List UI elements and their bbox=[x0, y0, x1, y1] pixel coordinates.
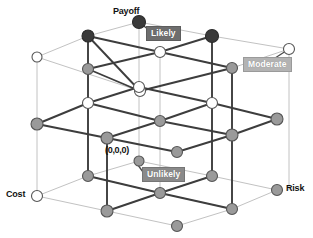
lattice-node-t-mid-mid bbox=[155, 47, 166, 58]
lattice-node-b-back-left bbox=[32, 191, 43, 202]
lattice-node-m-back-mid bbox=[83, 98, 94, 109]
lattice-node-m-center bbox=[155, 116, 166, 127]
lattice-node-b-front-right bbox=[272, 185, 283, 196]
diagram-canvas: Payoff Cost Risk (0,0,0) Likely Moderate… bbox=[0, 0, 313, 238]
lattice-node-b-mid-left bbox=[101, 205, 113, 217]
origin-coordinate-label: (0,0,0) bbox=[105, 145, 129, 155]
lattice-node-b-front-left bbox=[172, 221, 183, 232]
lattice-node-m-mid-left bbox=[101, 132, 113, 144]
lattice-node-m-back-right bbox=[134, 82, 145, 93]
axis-label-payoff: Payoff bbox=[113, 6, 139, 16]
lattice-node-b-center bbox=[155, 188, 166, 199]
lattice-node-b-front-mid bbox=[227, 204, 238, 215]
lattice-node-t-back-right bbox=[133, 16, 146, 29]
lattice-node-m-front-right bbox=[271, 113, 283, 125]
axis-label-risk: Risk bbox=[286, 183, 304, 193]
lattice-node-t-mid-right bbox=[206, 30, 219, 43]
lattice-node-t-back-left bbox=[32, 52, 42, 62]
lattice-node-t-front-mid bbox=[227, 63, 238, 74]
lattice-node-t-back-mid bbox=[82, 30, 94, 42]
lattice-node-m-back-left bbox=[31, 118, 43, 130]
lattice-node-t-mid-left bbox=[83, 64, 94, 75]
lattice-node-b-back-mid bbox=[83, 171, 94, 182]
callout-likely: Likely bbox=[146, 26, 181, 41]
callout-unlikely: Unlikely bbox=[142, 167, 185, 182]
axis-label-cost: Cost bbox=[6, 189, 25, 199]
lattice-node-m-front-mid bbox=[226, 129, 238, 141]
lattice-node-b-mid-right bbox=[207, 171, 218, 182]
lattice-node-b-back-right bbox=[134, 156, 144, 166]
lattice-node-m-front-left bbox=[172, 147, 183, 158]
lattice-node-m-mid-right bbox=[207, 98, 218, 109]
callout-moderate: Moderate bbox=[243, 57, 292, 72]
lattice-node-t-front-right bbox=[284, 44, 295, 55]
